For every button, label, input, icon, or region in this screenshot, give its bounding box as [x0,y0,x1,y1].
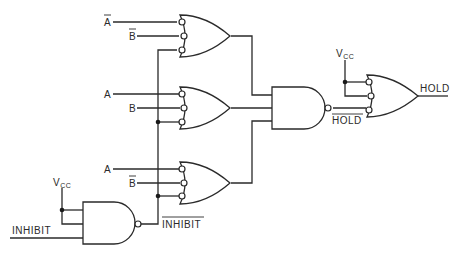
junction-dot [343,80,348,85]
or-gate-3 [179,162,230,204]
label-vcc-right: VCC [336,48,354,60]
wire-vcc-right [345,60,367,96]
wire-or3-out [231,121,272,183]
label-hold-out: HOLD [420,83,450,94]
label-or1-a: A [104,17,111,28]
label-or3-a: A [104,164,111,175]
junction-dot [60,208,65,213]
wire-or1-out [231,36,272,95]
label-or1-b: B [129,31,136,42]
or-gate-2 [179,87,230,129]
label-inhibit-out: INHIBIT [162,219,201,230]
label-hold-bar: HOLD [332,115,362,126]
label-or2-a: A [104,89,111,100]
or-gate-output [366,75,418,117]
nand-gate-inhibit [83,202,141,244]
label-or3-b: B [129,178,136,189]
wire-vcc-left [62,188,83,224]
junction-dot [156,120,161,125]
label-or2-b: B [129,103,136,114]
label-vcc-left: VCC [53,177,71,189]
or-gate-1 [179,15,230,57]
nand-gate-hold [272,87,331,129]
junction-dot [156,194,161,199]
logic-circuit-diagram: A B A B A B VCC VCC INHIBIT INHIBIT HOLD… [0,0,460,253]
label-inhibit-in: INHIBIT [12,225,51,236]
